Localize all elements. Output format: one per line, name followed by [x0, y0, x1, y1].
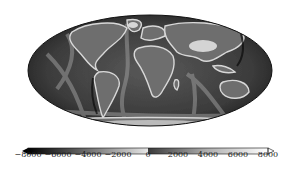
colorbar-tick-label: 0 [145, 150, 150, 160]
colorbar-tick-label: −6000 [44, 150, 71, 160]
colorbar-tick-label: 4000 [198, 150, 218, 160]
colorbar-tick-label: −8000 [14, 150, 41, 160]
world-map-mollweide [27, 14, 273, 127]
colorbar-tick-label: 2000 [168, 150, 188, 160]
colorbar-tick-label: −2000 [104, 150, 131, 160]
colorbar-tick-label: −4000 [74, 150, 101, 160]
colorbar [22, 140, 274, 148]
colorbar-tick-label: 6000 [228, 150, 248, 160]
colorbar-tick-label: 8000 [258, 150, 278, 160]
elevation-map-graphic [27, 14, 273, 127]
